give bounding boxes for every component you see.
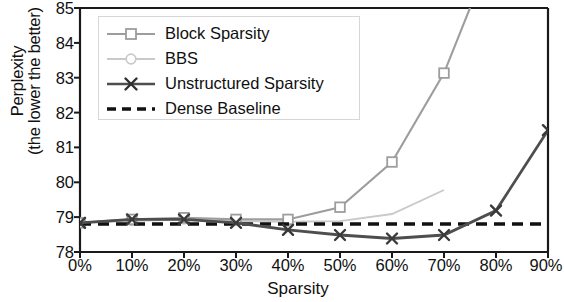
chart-figure: Perplexity (the lower the better) 78 79 … [0,0,564,302]
x-tick-60: 60% [375,256,408,275]
x-tick-30: 30% [219,256,252,275]
x-tick-90: 90% [529,256,562,275]
x-tick-40: 40% [271,256,304,275]
x-tick-0: 0% [68,256,92,275]
x-tick-70: 70% [427,256,460,275]
x-axis-label-text: Sparsity [267,279,328,298]
x-tick-80: 80% [479,256,512,275]
x-axis-tick-labels: 0% 10% 20% 30% 40% 50% 60% 70% 80% 90% [0,0,564,302]
x-axis-label: Sparsity [0,279,564,299]
x-tick-10: 10% [115,256,148,275]
x-tick-20: 20% [167,256,200,275]
x-tick-50: 50% [323,256,356,275]
